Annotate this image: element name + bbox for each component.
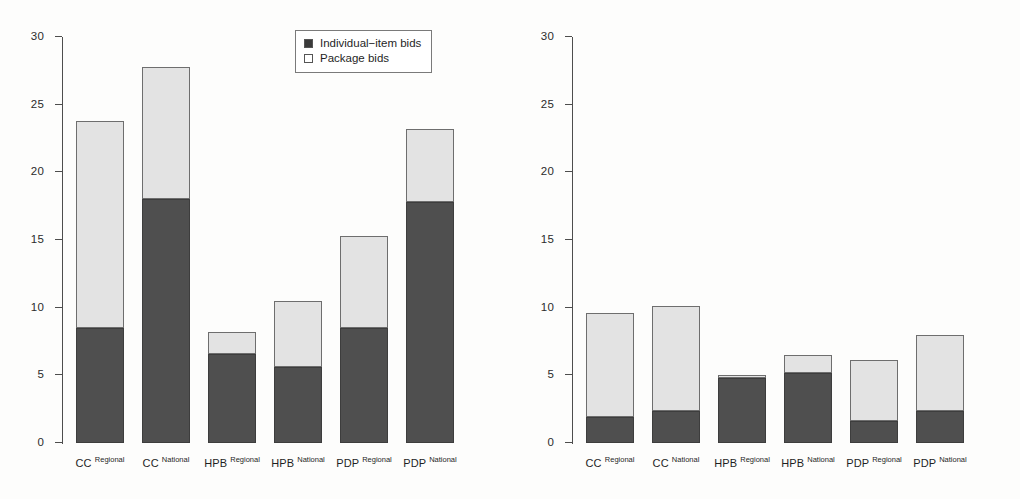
x-axis-category-label: PDP Regional: [846, 455, 902, 469]
y-axis-tick: 30: [55, 36, 62, 37]
bar-segment-individual-item-bids: [586, 417, 634, 443]
bar-segment-individual-item-bids: [76, 328, 124, 443]
x-axis-category-label: PDP National: [403, 455, 456, 469]
legend-swatch-individual-icon: [304, 39, 313, 48]
bars-group-right: CC RegionalCC NationalHPB RegionalHPB Na…: [572, 37, 992, 443]
y-axis-tick-label: 15: [541, 233, 554, 245]
legend-label-package: Package bids: [320, 51, 389, 66]
x-axis-category-label: HPB Regional: [204, 455, 260, 469]
bars-group-left: CC RegionalCC NationalHPB RegionalHPB Na…: [62, 37, 482, 443]
plot-area-right: 051015202530 CC RegionalCC NationalHPB R…: [572, 37, 992, 443]
bar-cc-national: CC National: [652, 306, 700, 443]
plot-area-left: 051015202530 CC RegionalCC NationalHPB R…: [62, 37, 482, 443]
bar-segment-package-bids: [652, 306, 700, 410]
x-axis-category-label: HPB Regional: [714, 455, 770, 469]
y-axis-tick: 10: [55, 307, 62, 308]
bar-segment-package-bids: [850, 360, 898, 421]
bar-segment-individual-item-bids: [718, 378, 766, 443]
x-axis-category-label: CC Regional: [76, 455, 125, 469]
bar-segment-individual-item-bids: [340, 328, 388, 443]
y-axis-tick-label: 0: [37, 436, 44, 448]
y-axis-tick: 0: [565, 442, 572, 443]
figure-two-panel-stacked-bar-chart: 051015202530 CC RegionalCC NationalHPB R…: [0, 0, 1020, 499]
bar-segment-package-bids: [340, 236, 388, 328]
chart-panel-left: 051015202530 CC RegionalCC NationalHPB R…: [0, 0, 510, 499]
bar-segment-package-bids: [586, 313, 634, 417]
y-axis-tick-label: 20: [31, 165, 44, 177]
y-axis-tick: 15: [565, 239, 572, 240]
x-axis-category-label: HPB National: [781, 455, 835, 469]
y-axis-tick: 5: [565, 374, 572, 375]
bar-segment-individual-item-bids: [916, 411, 964, 443]
bar-segment-package-bids: [274, 301, 322, 367]
x-axis-category-label: CC National: [143, 455, 190, 469]
x-axis-category-label: CC National: [653, 455, 700, 469]
bar-segment-individual-item-bids: [208, 354, 256, 443]
bar-pdp-national: PDP National: [916, 335, 964, 443]
bar-pdp-regional: PDP Regional: [850, 360, 898, 443]
bar-segment-package-bids: [784, 355, 832, 373]
y-axis-tick-label: 10: [31, 301, 44, 313]
y-axis-tick-label: 5: [37, 368, 44, 380]
legend-left: Individual−item bids Package bids: [295, 30, 432, 73]
bar-segment-package-bids: [208, 332, 256, 354]
y-axis-tick-label: 25: [541, 98, 554, 110]
legend-swatch-package-icon: [304, 54, 313, 63]
y-axis-tick-label: 20: [541, 165, 554, 177]
chart-panel-right: 051015202530 CC RegionalCC NationalHPB R…: [510, 0, 1020, 499]
y-axis-tick: 0: [55, 442, 62, 443]
y-axis-tick: 20: [565, 171, 572, 172]
x-axis-category-label: CC Regional: [586, 455, 635, 469]
bar-cc-regional: CC Regional: [76, 121, 124, 443]
y-axis-tick-label: 0: [547, 436, 554, 448]
y-axis-tick: 25: [565, 104, 572, 105]
bar-cc-regional: CC Regional: [586, 313, 634, 443]
bar-segment-individual-item-bids: [142, 199, 190, 443]
y-axis-tick: 15: [55, 239, 62, 240]
y-axis-tick-label: 30: [31, 30, 44, 42]
legend-item-package-bids: Package bids: [304, 51, 421, 66]
bar-segment-package-bids: [76, 121, 124, 328]
bar-segment-package-bids: [142, 67, 190, 200]
legend-label-individual: Individual−item bids: [320, 36, 421, 51]
bar-pdp-regional: PDP Regional: [340, 236, 388, 443]
x-axis-category-label: PDP National: [913, 455, 966, 469]
x-axis-category-label: PDP Regional: [336, 455, 392, 469]
y-axis-tick-label: 10: [541, 301, 554, 313]
bar-segment-individual-item-bids: [274, 367, 322, 443]
bar-segment-individual-item-bids: [850, 421, 898, 443]
bar-hpb-regional: HPB Regional: [718, 375, 766, 443]
bar-cc-national: CC National: [142, 67, 190, 443]
bar-segment-individual-item-bids: [784, 373, 832, 443]
y-axis-tick: 5: [55, 374, 62, 375]
y-axis-tick: 10: [565, 307, 572, 308]
bar-segment-package-bids: [406, 129, 454, 202]
bar-pdp-national: PDP National: [406, 129, 454, 443]
y-axis-tick-label: 5: [547, 368, 554, 380]
y-axis-tick: 20: [55, 171, 62, 172]
y-axis-tick-label: 30: [541, 30, 554, 42]
bar-segment-individual-item-bids: [406, 202, 454, 443]
bar-hpb-regional: HPB Regional: [208, 332, 256, 443]
y-axis-tick-label: 15: [31, 233, 44, 245]
bar-hpb-national: HPB National: [784, 355, 832, 443]
x-axis-category-label: HPB National: [271, 455, 325, 469]
bar-segment-individual-item-bids: [652, 411, 700, 443]
bar-hpb-national: HPB National: [274, 301, 322, 443]
y-axis-tick: 25: [55, 104, 62, 105]
legend-item-individual-item-bids: Individual−item bids: [304, 36, 421, 51]
y-axis-tick: 30: [565, 36, 572, 37]
y-axis-tick-label: 25: [31, 98, 44, 110]
bar-segment-package-bids: [916, 335, 964, 411]
